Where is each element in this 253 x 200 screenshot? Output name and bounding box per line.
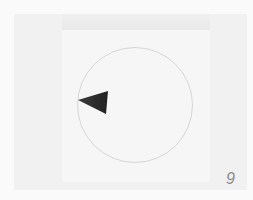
panel-number: 9 <box>226 170 235 188</box>
triangle-marker-icon <box>0 0 253 200</box>
